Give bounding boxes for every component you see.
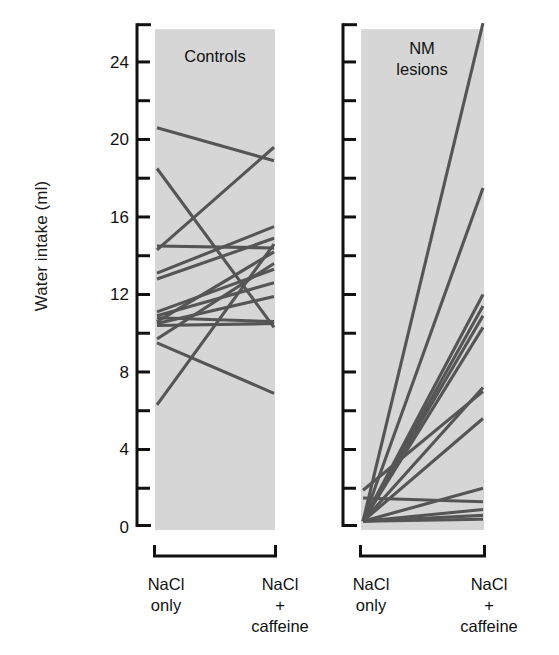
xaxis-caption-line: only <box>336 595 406 616</box>
figure-container: Water intake (ml) 04812162024ControlsNMl… <box>0 0 559 655</box>
y-tick-label: 4 <box>120 440 129 459</box>
y-tick-label: 12 <box>110 285 129 304</box>
xaxis-caption-nm-left: NaCl only <box>336 574 406 616</box>
xaxis-caption-line: caffeine <box>240 616 320 637</box>
y-tick-label: 0 <box>120 518 129 537</box>
xaxis-caption-line: + <box>240 595 320 616</box>
chart-generated-graphics: 04812162024ControlsNMlesions <box>110 23 486 556</box>
data-line <box>157 246 274 248</box>
panel-background-controls <box>155 29 275 530</box>
data-line <box>363 519 483 521</box>
xaxis-caption-controls-right: NaCl + caffeine <box>240 574 320 637</box>
xaxis-caption-controls-left: NaCl only <box>131 574 201 616</box>
xaxis-caption-line: NaCl <box>336 574 406 595</box>
xaxis-caption-line: + <box>447 595 531 616</box>
panel-title-nm-lesions: NM <box>409 39 435 57</box>
xaxis-caption-line: NaCl <box>240 574 320 595</box>
y-tick-label: 24 <box>110 53 129 72</box>
xaxis-caption-line: NaCl <box>447 574 531 595</box>
y-tick-label: 16 <box>110 208 129 227</box>
xaxis-caption-line: caffeine <box>447 616 531 637</box>
panel-title-nm-lesions: lesions <box>396 60 447 78</box>
xaxis-caption-line: NaCl <box>131 574 201 595</box>
panel-title-controls: Controls <box>184 47 245 65</box>
y-tick-label: 8 <box>120 363 129 382</box>
xaxis-caption-line: only <box>131 595 201 616</box>
xaxis-caption-nm-right: NaCl + caffeine <box>447 574 531 637</box>
y-tick-label: 20 <box>110 130 129 149</box>
chart-canvas: 04812162024ControlsNMlesions <box>0 0 559 655</box>
